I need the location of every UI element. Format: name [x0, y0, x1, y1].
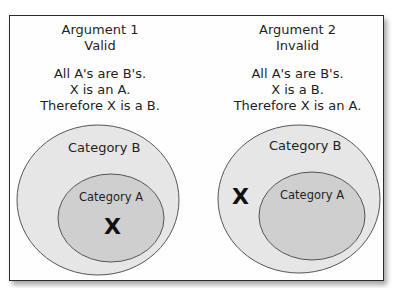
arg2-premise-2: X is a B. [210, 82, 385, 98]
arg2-title: Argument 2 [210, 22, 385, 38]
arg1-x-marker: X [104, 216, 121, 238]
arg1-premises: All A's are B's. X is an A. Therefore X … [30, 66, 170, 114]
arg2-category-a-label: Category A [280, 188, 344, 202]
arg1-conclusion: Therefore X is a B. [30, 98, 170, 114]
arg2-category-b-label: Category B [269, 138, 341, 153]
arg1-category-b-label: Category B [68, 140, 140, 155]
arg2-x-marker: X [232, 186, 249, 208]
arg1-category-a-label: Category A [79, 190, 143, 204]
arg2-conclusion: Therefore X is an A. [210, 98, 385, 114]
arg1-premise-2: X is an A. [30, 82, 170, 98]
arg1-premise-1: All A's are B's. [30, 66, 170, 82]
arg2-category-a-ellipse [259, 172, 365, 260]
arg2-heading: Argument 2 Invalid [210, 22, 385, 54]
arg2-premises: All A's are B's. X is a B. Therefore X i… [210, 66, 385, 114]
arg2-premise-1: All A's are B's. [210, 66, 385, 82]
arg1-verdict: Valid [30, 38, 170, 54]
arg1-title: Argument 1 [30, 22, 170, 38]
arg2-verdict: Invalid [210, 38, 385, 54]
arg1-heading: Argument 1 Valid [30, 22, 170, 54]
